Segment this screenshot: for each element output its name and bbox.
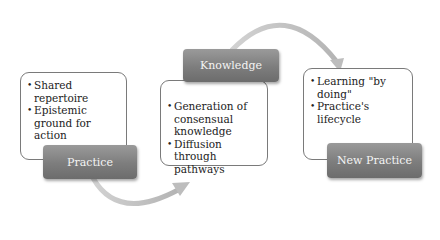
new-practice-label: New Practice bbox=[327, 143, 422, 178]
bullet-item: Epistemic ground for action bbox=[27, 104, 122, 142]
bullet-item: Practice's lifecycle bbox=[310, 100, 408, 125]
bullet-item: Learning "by doing" bbox=[310, 75, 408, 100]
bullet-item: Generation of consensual knowledge bbox=[167, 100, 263, 138]
practice-label: Practice bbox=[43, 145, 137, 179]
arrow-practice-to-knowledge bbox=[93, 178, 190, 203]
knowledge-bullet-list: Generation of consensual knowledge Diffu… bbox=[167, 100, 263, 175]
knowledge-label: Knowledge bbox=[183, 49, 279, 82]
knowledge-details-box: Generation of consensual knowledge Diffu… bbox=[160, 80, 268, 166]
new-practice-bullet-list: Learning "by doing" Practice's lifecycle bbox=[310, 75, 408, 125]
bullet-item: Shared repertoire bbox=[27, 79, 122, 104]
bullet-item: Diffusion through pathways bbox=[167, 138, 263, 176]
practice-bullet-list: Shared repertoire Epistemic ground for a… bbox=[27, 79, 122, 142]
